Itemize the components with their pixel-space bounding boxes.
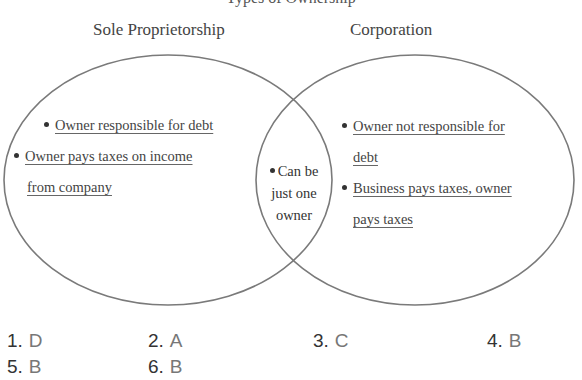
answer-number: 4. <box>487 330 503 351</box>
answer-1: 1.D <box>7 330 43 352</box>
item-text: pays taxes <box>353 211 413 227</box>
list-item-continuation: from company <box>27 172 112 203</box>
list-item: Owner responsible for debt <box>44 110 213 141</box>
bullet-icon <box>14 153 19 158</box>
answer-3: 3.C <box>313 330 349 352</box>
list-item-continuation: pays taxes <box>353 204 413 235</box>
answer-5: 5.B <box>7 356 42 378</box>
overlap-line: just one <box>262 182 326 204</box>
answer-2: 2.A <box>148 330 183 352</box>
overlap-line: owner <box>262 204 326 226</box>
list-item-continuation: debt <box>353 142 378 173</box>
item-text: Owner not responsible for <box>353 118 505 134</box>
item-text: Owner responsible for debt <box>55 117 213 133</box>
list-item: Owner not responsible for <box>342 111 505 142</box>
answer-number: 3. <box>313 330 329 351</box>
answer-4: 4.B <box>487 330 522 352</box>
answer-6: 6.B <box>148 356 183 378</box>
answer-letter: B <box>29 356 42 377</box>
bullet-icon <box>270 168 275 173</box>
list-item: Business pays taxes, owner <box>342 173 512 204</box>
answer-number: 1. <box>7 330 23 351</box>
list-item: Owner pays taxes on income <box>14 141 193 172</box>
answer-number: 5. <box>7 356 23 377</box>
answer-letter: B <box>509 330 522 351</box>
overlap-text: Can be just one owner <box>262 160 326 226</box>
overlap-line: Can be <box>278 163 319 179</box>
item-text: from company <box>27 179 112 195</box>
answer-letter: B <box>170 356 183 377</box>
answer-letter: C <box>335 330 349 351</box>
bullet-icon <box>342 185 347 190</box>
item-text: Owner pays taxes on income <box>25 148 193 164</box>
answer-letter: A <box>170 330 183 351</box>
bullet-icon <box>342 123 347 128</box>
answer-letter: D <box>29 330 43 351</box>
item-text: Business pays taxes, owner <box>353 180 512 196</box>
answer-number: 6. <box>148 356 164 377</box>
item-text: debt <box>353 149 378 165</box>
bullet-icon <box>44 122 49 127</box>
answer-number: 2. <box>148 330 164 351</box>
